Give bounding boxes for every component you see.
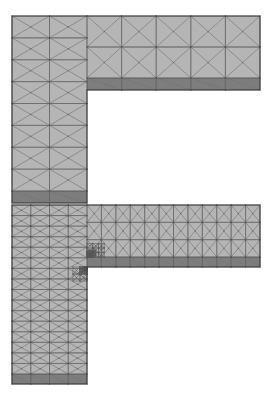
refined-mesh-svg — [0, 0, 270, 393]
refined-mesh-faces — [12, 205, 260, 384]
mesh-panel-refined — [0, 0, 270, 393]
figure-canvas — [0, 0, 270, 393]
